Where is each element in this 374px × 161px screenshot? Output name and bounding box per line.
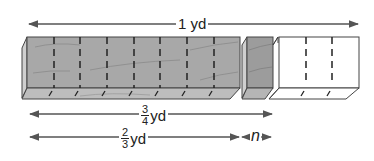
two-thirds-denominator: 3: [121, 139, 129, 150]
three-quarter-unit: yd: [150, 107, 166, 124]
n-label: n: [250, 128, 261, 144]
n-text: n: [251, 127, 260, 144]
gray-main-piece: [22, 37, 240, 99]
two-thirds-unit: yd: [130, 130, 146, 147]
gray-small-piece: [242, 37, 273, 99]
three-quarter-label: 3 4 yd: [139, 104, 168, 127]
one-yard-label: 1 yd: [176, 16, 208, 31]
two-thirds-label: 2 3 yd: [119, 127, 148, 150]
two-thirds-fraction: 2 3: [121, 127, 129, 150]
three-quarter-fraction: 3 4: [141, 104, 149, 127]
three-quarter-denominator: 4: [141, 116, 149, 127]
white-piece: [269, 37, 359, 99]
one-yard-text: 1 yd: [178, 15, 206, 32]
